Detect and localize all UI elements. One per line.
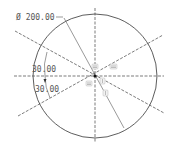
angle-dimension-upper[interactable]: 30.00 [32,65,56,74]
angle-dimension-lower[interactable]: 30.00 [35,85,59,94]
diameter-dimension-text[interactable]: Ø 200.00 [16,12,55,22]
sketch-canvas[interactable]: Ø 200.00 30.00 30.00 [0,0,173,152]
perpendicular-constraint-icon[interactable] [103,90,108,96]
equal-constraint-icon[interactable] [110,64,117,69]
center-point[interactable] [93,74,96,77]
arrow-icon [44,79,47,83]
perpendicular-constraint-icon[interactable] [100,78,105,84]
equal-constraint-icon[interactable] [86,81,92,86]
equal-constraint-icon[interactable] [92,64,98,69]
diameter-dimension-line[interactable] [64,18,124,128]
